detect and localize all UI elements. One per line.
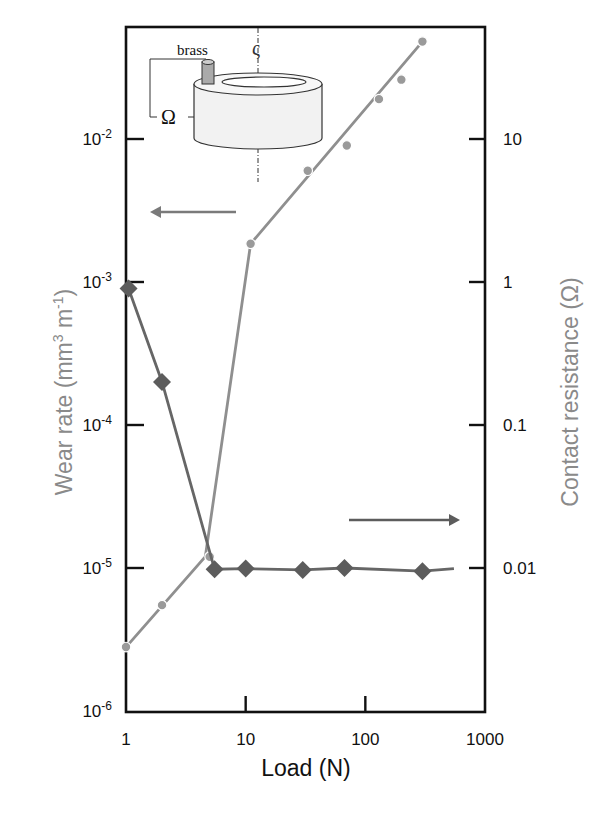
x-tick-label: 10 <box>236 730 255 749</box>
contact-resistance-point <box>413 562 431 580</box>
x-tick-label: 1 <box>121 730 130 749</box>
y2-tick-label: 10 <box>503 130 522 149</box>
x-tick-label: 100 <box>351 730 379 749</box>
left-axis-arrow <box>150 206 236 218</box>
brass-pin <box>202 62 214 84</box>
wear-rate-point <box>303 166 313 176</box>
wear-resistance-chart: brass Ω ς 110100100010-610-510-410-310-2… <box>0 0 612 818</box>
y-tick-label: 10-2 <box>82 127 112 149</box>
y-tick-label: 10-5 <box>82 556 112 578</box>
ohm-label: Ω <box>161 106 176 128</box>
y-tick-label: 10-4 <box>82 413 112 435</box>
contact-resistance-point <box>336 559 354 577</box>
wear-rate-point <box>121 642 131 652</box>
y-axis-title: Wear rate (mm3 m-1) <box>50 289 77 495</box>
wear-rate-point <box>342 141 352 151</box>
y2-tick-label: 0.1 <box>503 416 527 435</box>
contact-resistance-point <box>294 561 312 579</box>
y2-tick-label: 0.01 <box>503 559 536 578</box>
y-tick-label: 10-3 <box>82 270 112 292</box>
wear-rate-point <box>246 239 256 249</box>
y2-axis-title: Contact resistance (Ω) <box>557 277 583 506</box>
wear-rate-point <box>397 75 407 85</box>
x-tick-label: 1000 <box>466 730 504 749</box>
right-axis-arrow <box>349 514 460 526</box>
axes: 110100100010-610-510-410-310-20.010.1110 <box>82 127 536 749</box>
y-tick-label: 10-6 <box>82 699 112 721</box>
ring-hole <box>222 77 306 87</box>
contact-resistance-point <box>237 560 255 578</box>
y2-tick-label: 1 <box>503 273 512 292</box>
rotation-icon: ς <box>252 37 260 59</box>
wear-rate-point <box>418 37 428 47</box>
x-axis-title: Load (N) <box>261 755 350 781</box>
wear-rate-point <box>157 600 167 610</box>
contact-resistance-line <box>129 289 454 572</box>
inset-schematic: brass Ω ς <box>150 28 322 182</box>
contact-resistance-point <box>153 373 171 391</box>
brass-label: brass <box>177 42 208 58</box>
contact-resistance-point <box>206 560 224 578</box>
wear-rate-point <box>374 94 384 104</box>
brass-pin-top <box>202 60 214 65</box>
